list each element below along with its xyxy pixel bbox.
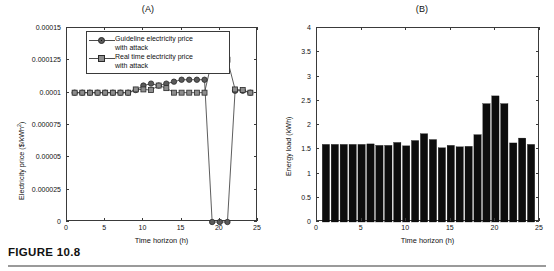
bar	[403, 146, 410, 222]
data-point-realtime	[72, 90, 77, 95]
x-tick-mark	[181, 27, 182, 30]
bar	[420, 134, 427, 222]
y-tick-label: 0.000025	[0, 185, 61, 192]
y-tick-label: 0	[272, 218, 311, 225]
panel-b-plot-area	[316, 27, 539, 221]
y-tick-label: 0.000125	[0, 56, 61, 63]
x-tick-label: 15	[177, 224, 185, 231]
y-tick-label: 0	[0, 218, 61, 225]
y-tick-label: 0.5	[272, 193, 311, 200]
data-point-realtime	[164, 86, 169, 91]
x-tick-mark	[450, 218, 451, 221]
bar	[429, 140, 436, 222]
data-point-guideline	[171, 79, 176, 84]
x-tick-mark	[361, 218, 362, 221]
panel-a-x-axis-label: Time horizon (h)	[66, 236, 257, 245]
y-tick-mark	[536, 51, 539, 52]
x-tick-mark	[66, 218, 67, 221]
bar	[474, 135, 481, 222]
x-tick-mark	[257, 27, 258, 30]
y-tick-mark	[66, 59, 69, 60]
bar	[501, 104, 508, 222]
data-point-guideline	[179, 77, 184, 82]
x-tick-mark	[450, 27, 451, 30]
x-tick-mark	[66, 27, 67, 30]
data-point-guideline	[187, 77, 192, 82]
panel-b-title: (B)	[272, 4, 554, 14]
y-tick-mark	[316, 124, 319, 125]
x-tick-mark	[405, 218, 406, 221]
bar	[492, 96, 499, 222]
y-tick-label: 4	[272, 24, 311, 31]
bar	[376, 145, 383, 222]
x-tick-label: 15	[446, 224, 454, 231]
y-tick-mark	[536, 124, 539, 125]
y-tick-mark	[316, 148, 319, 149]
bar	[519, 138, 526, 222]
legend-item-guideline[interactable]: Guideline electricity price with attack	[89, 35, 226, 52]
data-point-realtime	[80, 90, 85, 95]
x-tick-mark	[219, 27, 220, 30]
data-point-realtime	[240, 88, 245, 93]
y-tick-mark	[536, 148, 539, 149]
data-point-guideline	[225, 219, 230, 224]
y-tick-mark	[536, 76, 539, 77]
panel-b-x-axis-label: Time horizon (h)	[316, 236, 539, 245]
x-tick-mark	[142, 218, 143, 221]
data-point-realtime	[233, 87, 238, 92]
x-tick-mark	[181, 218, 182, 221]
panel-a-title: (A)	[0, 4, 272, 14]
data-point-realtime	[179, 90, 184, 95]
legend-item-realtime[interactable]: Real time electricity price with attack	[89, 53, 226, 70]
data-point-realtime	[103, 90, 108, 95]
x-tick-mark	[104, 218, 105, 221]
x-tick-label: 5	[102, 224, 106, 231]
y-tick-label: 3.5	[272, 48, 311, 55]
legend-marker-square-icon	[89, 53, 115, 64]
series-line-guideline	[75, 80, 251, 222]
bar	[349, 144, 356, 222]
y-tick-label: 0.0001	[0, 88, 61, 95]
x-tick-label: 5	[359, 224, 363, 231]
data-point-realtime	[194, 90, 199, 95]
legend-marker-circle-icon	[89, 35, 115, 46]
bar	[331, 144, 338, 222]
y-tick-mark	[536, 221, 539, 222]
data-point-realtime	[248, 90, 253, 95]
bar	[527, 144, 534, 222]
y-tick-mark	[66, 189, 69, 190]
data-point-realtime	[133, 87, 138, 92]
x-tick-mark	[361, 27, 362, 30]
y-tick-mark	[254, 59, 257, 60]
y-tick-label: 1	[272, 169, 311, 176]
panel-a-legend[interactable]: Guideline electricity price with attack …	[86, 31, 230, 74]
x-tick-label: 10	[401, 224, 409, 231]
y-tick-mark	[316, 76, 319, 77]
bar	[447, 145, 454, 222]
y-tick-label: 0.00005	[0, 153, 61, 160]
y-tick-mark	[316, 51, 319, 52]
x-tick-label: 0	[314, 224, 318, 231]
data-point-realtime	[95, 90, 100, 95]
y-tick-mark	[66, 124, 69, 125]
x-tick-mark	[257, 218, 258, 221]
legend-label-realtime: Real time electricity price with attack	[115, 53, 193, 70]
y-tick-mark	[536, 173, 539, 174]
caption-rule	[8, 265, 546, 267]
bar	[465, 146, 472, 222]
data-point-realtime	[202, 90, 207, 95]
bar	[322, 144, 329, 222]
data-point-realtime	[87, 90, 92, 95]
bar	[438, 148, 445, 222]
data-point-guideline	[194, 77, 199, 82]
y-tick-mark	[316, 173, 319, 174]
x-tick-mark	[142, 27, 143, 30]
x-tick-mark	[316, 218, 317, 221]
y-tick-mark	[254, 189, 257, 190]
data-point-realtime	[171, 90, 176, 95]
data-point-guideline	[202, 77, 207, 82]
y-tick-mark	[254, 156, 257, 157]
data-point-realtime	[141, 87, 146, 92]
x-tick-mark	[316, 27, 317, 30]
y-tick-mark	[536, 100, 539, 101]
